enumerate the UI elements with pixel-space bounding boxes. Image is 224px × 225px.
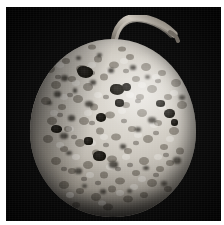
lesion-spot [47,101,52,105]
lesion-spot [93,151,106,161]
lesion-spot [145,75,150,79]
lesion-spot [120,144,126,149]
lesion-spot [115,99,124,107]
lesion-spot [171,119,178,126]
lesion-spot [85,101,93,107]
lesion-spot [122,83,131,91]
lesion-spot [109,161,118,168]
lesion-spot [127,189,132,193]
lesion-spot [75,168,82,174]
lesion-spot [51,125,62,133]
lesion-spot [60,133,68,139]
lesion-spots [30,39,196,217]
lesion-spot [78,67,93,78]
lesion-spot [66,151,72,155]
lesion-spot [68,115,75,121]
lesion-spot [76,56,81,60]
lesion-spot [173,157,181,164]
fruit-body [30,39,196,217]
lesion-spot [82,184,87,188]
lesion-spot [100,189,106,194]
lesion-spot [84,137,93,145]
lesion-spot [90,80,96,85]
lesion-spot [135,127,141,132]
lesion-spot [108,68,114,73]
lesion-spot [148,117,156,123]
lesion-spot [179,95,185,100]
lesion-spot [61,75,68,81]
lesion-spot [73,88,78,93]
lesion-spot [164,109,175,118]
lesion-spot [130,65,136,70]
lesion-spot [97,53,102,57]
lesion-spot [156,100,165,107]
fruit [30,39,196,217]
lesion-spot [161,181,167,186]
photograph-plate [6,7,221,221]
lesion-spot [54,91,61,97]
lesion-spot [143,166,149,170]
photo-page [0,0,224,225]
lesion-spot [96,113,106,122]
